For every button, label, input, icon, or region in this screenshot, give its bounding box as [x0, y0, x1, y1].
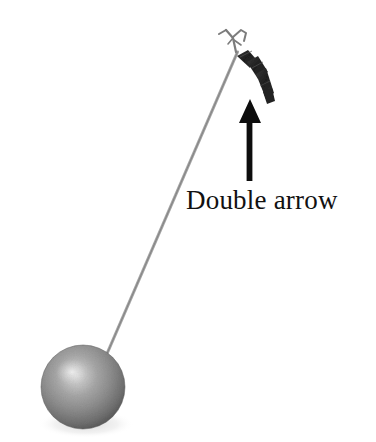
pendulum-illustration	[0, 0, 376, 442]
pendulum-figure: Double arrow	[0, 0, 376, 442]
annotation-arrow-icon	[239, 99, 261, 181]
double-arrow-clip	[237, 50, 275, 104]
support-hook	[219, 30, 246, 52]
annotation-label: Double arrow	[186, 186, 338, 214]
pendulum-bob	[41, 345, 125, 429]
